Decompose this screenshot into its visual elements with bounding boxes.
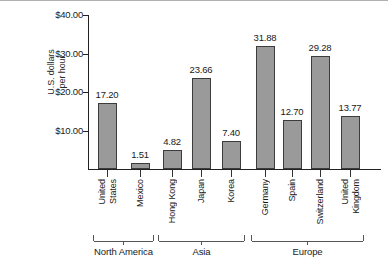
bar	[283, 120, 302, 169]
bar-value-label: 17.20	[85, 90, 129, 100]
y-axis-tick-label: $10.00	[11, 126, 83, 136]
category-label-line: Japan	[196, 179, 206, 203]
x-axis-category-label: Japan	[185, 179, 217, 229]
category-label-line: United	[340, 179, 350, 204]
category-label-line: Mexico	[135, 179, 145, 207]
group-bracket	[93, 235, 154, 241]
category-label-line: United	[97, 179, 107, 204]
x-axis-category-label: Switzerland	[304, 179, 336, 229]
bar-chart-figure: U.S. dollars per hour $10.00$20.00$30.00…	[0, 0, 388, 267]
bar	[341, 116, 360, 169]
x-axis-category-label: UnitedKingdom	[334, 179, 366, 229]
x-axis-tick	[265, 170, 266, 177]
bar	[98, 103, 117, 169]
x-axis-tick	[292, 170, 293, 177]
y-axis-tick-labels: $10.00$20.00$30.00$40.00	[0, 1, 83, 267]
plot-area: 17.201.514.8223.667.4031.8812.7029.2813.…	[88, 1, 381, 170]
category-label-line: Germany	[260, 179, 270, 215]
category-label-line: States	[108, 179, 118, 204]
x-axis-tick	[107, 170, 108, 177]
bar-value-label: 7.40	[209, 128, 253, 138]
x-axis-tick	[231, 170, 232, 177]
x-axis-tick	[140, 170, 141, 177]
y-axis-tick-label: $30.00	[11, 49, 83, 59]
x-axis-category-label: Hong Kong	[156, 179, 188, 229]
bar-value-label: 29.28	[298, 43, 342, 53]
category-label-line: Hong Kong	[167, 179, 177, 223]
bar-value-label: 1.51	[118, 150, 162, 160]
x-axis-category-label: UnitedStates	[91, 179, 123, 229]
group-label: Europe	[231, 246, 384, 257]
bar	[192, 78, 211, 169]
y-axis-tick-label: $40.00	[11, 10, 83, 20]
x-axis-tick	[350, 170, 351, 177]
bar-value-label: 23.66	[179, 65, 223, 75]
bar-value-label: 4.82	[150, 137, 194, 147]
group-bracket	[251, 235, 364, 241]
x-axis-tick	[172, 170, 173, 177]
category-label-line: Kingdom	[351, 179, 361, 214]
bar-value-label: 12.70	[270, 107, 314, 117]
bar	[131, 163, 150, 169]
bar	[222, 141, 241, 169]
group-bracket	[158, 235, 245, 241]
x-axis-tick	[320, 170, 321, 177]
x-axis-category-label: Korea	[215, 179, 247, 229]
bar	[163, 150, 182, 169]
bar-value-label: 31.88	[243, 33, 287, 43]
bar-value-label: 13.77	[328, 103, 372, 113]
bar	[311, 56, 330, 169]
category-label-line: Korea	[226, 179, 236, 203]
x-axis-category-label: Mexico	[124, 179, 156, 229]
category-label-line: Switzerland	[315, 179, 325, 224]
y-axis-tick-label: $20.00	[11, 87, 83, 97]
x-axis-tick	[201, 170, 202, 177]
category-label-line: Spain	[287, 179, 297, 202]
